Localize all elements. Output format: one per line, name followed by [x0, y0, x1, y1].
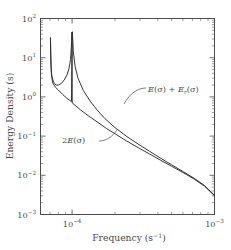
lower-curve-label: 2E(σ): [62, 135, 85, 145]
figure-root: E(σ) + Er(σ) 2E(σ) 10210110010−110−210−3…: [0, 0, 231, 250]
log-log-chart: E(σ) + Er(σ) 2E(σ) 10210110010−110−210−3…: [0, 0, 231, 250]
y-axis-title: Energy Density (s): [4, 73, 15, 160]
upper-curve-label: E(σ) + Er(σ): [147, 84, 199, 95]
